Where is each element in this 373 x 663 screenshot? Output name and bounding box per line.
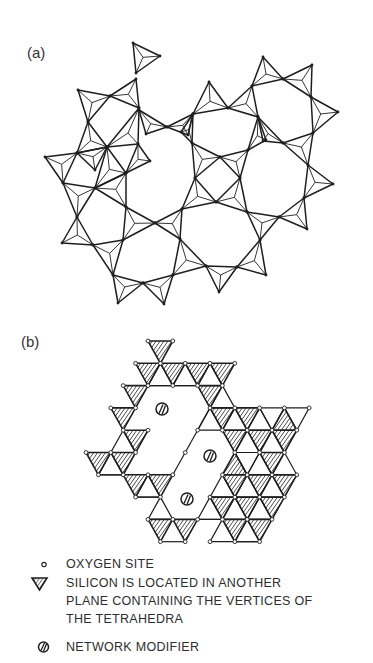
oxygen-site xyxy=(84,451,88,455)
silicon-tetrahedron xyxy=(222,475,247,497)
oxygen-site xyxy=(221,473,225,477)
silicon-tetrahedron xyxy=(247,475,272,497)
legend-label-silicon-line-3: THE TETRAHEDRA xyxy=(66,610,183,628)
silicon-tetrahedron xyxy=(210,363,235,385)
oxygen-site xyxy=(283,495,287,499)
oxygen-site xyxy=(183,451,187,455)
silicon-tetrahedron xyxy=(235,408,260,430)
silicon-tetrahedron xyxy=(111,408,136,430)
oxygen-site xyxy=(134,361,138,365)
silicon-tetrahedron xyxy=(123,430,148,452)
silicon-tetrahedron xyxy=(111,453,136,475)
oxygen-site xyxy=(208,540,212,544)
silicon-tetrahedron xyxy=(247,430,272,452)
silicon-tetrahedron xyxy=(235,497,260,519)
oxygen-site xyxy=(146,518,150,522)
network-modifier xyxy=(181,493,193,505)
oxygen-site xyxy=(270,518,274,522)
silicon-tetrahedron xyxy=(260,497,285,519)
oxygen-site xyxy=(233,495,237,499)
network-modifier-icon xyxy=(36,639,52,655)
silicon-tetrahedron xyxy=(272,408,297,430)
oxygen-site xyxy=(307,406,311,410)
silicon-tetrahedron xyxy=(260,453,285,475)
oxygen-site xyxy=(171,339,175,343)
oxygen-site xyxy=(221,428,225,432)
silicon-tetrahedron xyxy=(86,453,111,475)
oxygen-site xyxy=(208,495,212,499)
oxygen-site xyxy=(159,361,163,365)
oxygen-site xyxy=(233,540,237,544)
oxygen-site xyxy=(121,428,125,432)
silicon-tetrahedron xyxy=(222,453,247,475)
oxygen-site xyxy=(171,518,175,522)
legend-label-silicon-line-2: PLANE CONTAINING THE VERTICES OF xyxy=(66,592,312,610)
legend-label-oxygen-site: OXYGEN SITE xyxy=(66,555,154,573)
oxygen-site xyxy=(258,495,262,499)
oxygen-site xyxy=(109,406,113,410)
oxygen-site xyxy=(171,473,175,477)
oxygen-site xyxy=(208,406,212,410)
silicon-tetrahedron xyxy=(173,519,198,541)
oxygen-site xyxy=(134,495,138,499)
silicon-tetrahedron xyxy=(148,519,173,541)
oxygen-site xyxy=(245,473,249,477)
silicon-tetrahedron xyxy=(272,475,297,497)
oxygen-site xyxy=(258,540,262,544)
oxygen-site xyxy=(159,495,163,499)
oxygen-site xyxy=(134,406,138,410)
silicon-tetrahedron xyxy=(247,519,272,541)
silicon-tetrahedron xyxy=(222,430,247,452)
oxygen-site xyxy=(233,451,237,455)
oxygen-site xyxy=(146,339,150,343)
oxygen-site xyxy=(233,361,237,365)
oxygen-site xyxy=(283,451,287,455)
oxygen-site xyxy=(245,518,249,522)
oxygen-site xyxy=(233,406,237,410)
legend-label-silicon-line-1: SILICON IS LOCATED IN ANOTHER xyxy=(66,574,281,592)
oxygen-site xyxy=(196,428,200,432)
oxygen-site xyxy=(283,406,287,410)
oxygen-site xyxy=(258,451,262,455)
oxygen-site xyxy=(270,473,274,477)
silicon-tetrahedron xyxy=(222,519,247,541)
oxygen-site xyxy=(134,451,138,455)
oxygen-site-icon xyxy=(38,558,52,572)
silicon-tetrahedron xyxy=(123,386,148,408)
silicon-tetrahedron xyxy=(148,341,173,363)
oxygen-site xyxy=(270,428,274,432)
network-modifier xyxy=(204,450,216,462)
oxygen-site xyxy=(295,473,299,477)
oxygen-site xyxy=(208,361,212,365)
oxygen-site xyxy=(183,361,187,365)
legend-label-network-modifier: NETWORK MODIFIER xyxy=(66,638,199,656)
network-modifier xyxy=(156,403,168,415)
oxygen-site xyxy=(159,540,163,544)
oxygen-site xyxy=(221,518,225,522)
oxygen-site xyxy=(183,540,187,544)
silicon-tetrahedron xyxy=(123,475,148,497)
oxygen-site xyxy=(97,473,101,477)
oxygen-site xyxy=(146,473,150,477)
silicon-tetrahedron xyxy=(185,363,210,385)
oxygen-site xyxy=(221,384,225,388)
oxygen-site xyxy=(171,384,175,388)
silicon-tetrahedron xyxy=(160,363,185,385)
lattice-triangle xyxy=(148,497,173,519)
silicon-tetrahedron-icon xyxy=(30,575,52,593)
oxygen-site xyxy=(258,406,262,410)
silicon-tetrahedron xyxy=(210,408,235,430)
oxygen-site xyxy=(196,384,200,388)
silicon-tetrahedron xyxy=(272,430,297,452)
oxygen-site xyxy=(245,428,249,432)
oxygen-site xyxy=(121,384,125,388)
silicon-tetrahedron xyxy=(210,497,235,519)
oxygen-site xyxy=(146,428,150,432)
panel-b-modified-network-diagram xyxy=(0,0,373,560)
oxygen-site xyxy=(121,473,125,477)
silicon-tetrahedron xyxy=(136,363,161,385)
oxygen-site xyxy=(196,518,200,522)
silicon-tetrahedron xyxy=(148,475,173,497)
oxygen-site xyxy=(146,384,150,388)
oxygen-site xyxy=(295,428,299,432)
